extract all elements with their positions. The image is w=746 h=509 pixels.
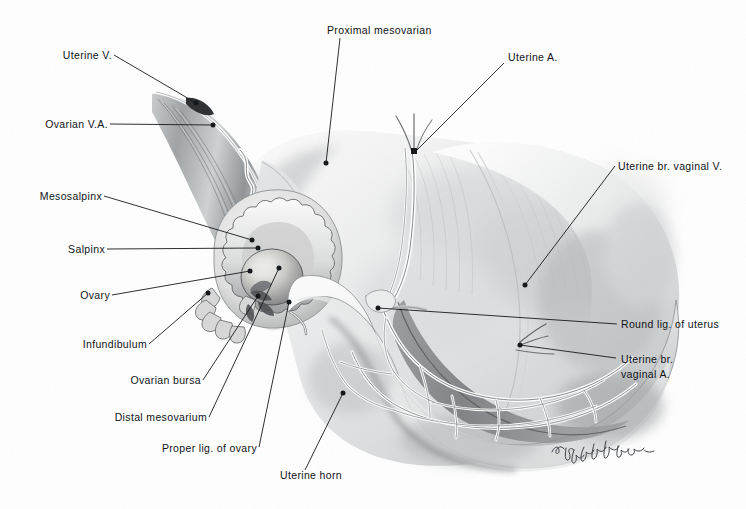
paper-grain bbox=[0, 0, 746, 509]
anatomical-figure: Uterine V. Ovarian V.A. Mesosalpinx Salp… bbox=[0, 0, 746, 509]
dot-distal-mesovarium bbox=[277, 266, 282, 271]
label-uterine-horn: Uterine horn bbox=[280, 468, 342, 483]
dot-proximal-mesovarian bbox=[324, 161, 329, 166]
label-ovarian-bursa: Ovarian bursa bbox=[0, 373, 201, 388]
label-salpinx: Salpinx bbox=[0, 242, 105, 257]
dot-ovary bbox=[248, 269, 253, 274]
dot-ovarian-va bbox=[211, 123, 216, 128]
dot-proper-lig-of-ovary bbox=[287, 300, 292, 305]
dot-uterine-br-vaginal-v bbox=[523, 283, 528, 288]
label-uterine-v: Uterine V. bbox=[0, 48, 112, 63]
label-uterine-a: Uterine A. bbox=[508, 50, 558, 65]
dot-uterine-br-vaginal-a bbox=[518, 343, 523, 348]
illustration-artwork bbox=[0, 0, 746, 509]
dot-ovarian-bursa bbox=[256, 294, 261, 299]
label-infundibulum: Infundibulum bbox=[0, 337, 147, 352]
dot-mesosalpinx bbox=[250, 238, 255, 243]
dot-uterine-a bbox=[411, 148, 417, 154]
dot-round-lig-of-uterus bbox=[376, 306, 381, 311]
label-distal-mesovarium: Distal mesovarium bbox=[0, 410, 207, 425]
dot-uterine-horn bbox=[341, 391, 346, 396]
dot-uterine-v bbox=[194, 101, 199, 106]
label-ovarian-va: Ovarian V.A. bbox=[0, 117, 108, 132]
dot-salpinx bbox=[256, 246, 261, 251]
label-proper-lig-of-ovary: Proper lig. of ovary bbox=[0, 441, 257, 456]
label-uterine-br-vaginal-a: Uterine br. vaginal A. bbox=[621, 352, 673, 381]
label-mesosalpinx: Mesosalpinx bbox=[0, 189, 102, 204]
dot-infundibulum bbox=[206, 291, 211, 296]
label-ovary: Ovary bbox=[0, 288, 110, 303]
label-uterine-br-vaginal-v: Uterine br. vaginal V. bbox=[618, 159, 722, 174]
label-round-lig-of-uterus: Round lig. of uterus bbox=[621, 317, 719, 332]
label-proximal-mesovarian: Proximal mesovarian bbox=[327, 23, 432, 38]
